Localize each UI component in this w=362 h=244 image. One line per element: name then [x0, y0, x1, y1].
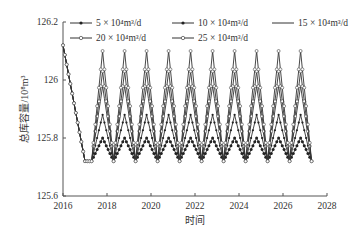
y-tick-label: 125.6 — [37, 191, 59, 201]
x-tick-label: 2024 — [230, 201, 249, 211]
legend-item: 25 × 10⁴m³/d — [172, 33, 248, 43]
series-1 — [62, 44, 314, 163]
x-tick-label: 2022 — [186, 201, 205, 211]
x-tick-label: 2016 — [54, 201, 73, 211]
storage-capacity-chart: 2016201820202022202420262028125.6125.812… — [0, 0, 362, 244]
x-axis-label: 时间 — [185, 214, 205, 226]
y-tick-label: 126.2 — [37, 17, 59, 27]
legend-item: 20 × 10⁴m³/d — [70, 33, 146, 43]
plot-series — [62, 44, 314, 163]
y-tick-label: 126 — [44, 75, 59, 85]
x-tick-label: 2018 — [98, 201, 117, 211]
legend-label: 20 × 10⁴m³/d — [96, 33, 146, 43]
x-tick-label: 2020 — [142, 201, 161, 211]
legend-label: 25 × 10⁴m³/d — [198, 33, 248, 43]
legend-item: 15 × 10⁴m³/d — [272, 18, 348, 28]
x-tick-label: 2028 — [318, 201, 337, 211]
legend-item: 5 × 10⁴m³/d — [70, 18, 142, 28]
legend: 5 × 10⁴m³/d10 × 10⁴m³/d15 × 10⁴m³/d20 × … — [70, 18, 348, 43]
legend-label: 10 × 10⁴m³/d — [198, 18, 248, 28]
y-tick-label: 125.8 — [37, 133, 59, 143]
y-axis-label: 总库容量/10⁸m³ — [18, 75, 30, 142]
legend-label: 15 × 10⁴m³/d — [298, 18, 348, 28]
legend-item: 10 × 10⁴m³/d — [172, 18, 248, 28]
x-tick-label: 2026 — [274, 201, 293, 211]
legend-label: 5 × 10⁴m³/d — [96, 18, 142, 28]
